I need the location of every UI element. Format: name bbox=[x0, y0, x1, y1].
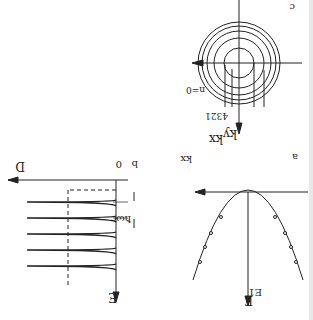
label-hwc: ħωc bbox=[110, 214, 131, 225]
label-zero: 0 bbox=[116, 159, 122, 170]
label-c: c bbox=[289, 2, 295, 13]
label-D: D bbox=[15, 159, 25, 173]
panel-b bbox=[8, 177, 134, 302]
label-b: b bbox=[132, 159, 138, 170]
label-kx-a: kx bbox=[180, 154, 192, 165]
label-ky: ky bbox=[223, 127, 237, 141]
label-a: a bbox=[292, 152, 298, 163]
label-E-a: E bbox=[244, 293, 253, 307]
label-kx-c: kx bbox=[209, 132, 223, 146]
page-edge bbox=[309, 0, 313, 320]
label-E-b: E bbox=[108, 290, 117, 304]
label-n0: n=0 bbox=[186, 85, 205, 95]
ring-labels: 4321 bbox=[205, 111, 228, 121]
